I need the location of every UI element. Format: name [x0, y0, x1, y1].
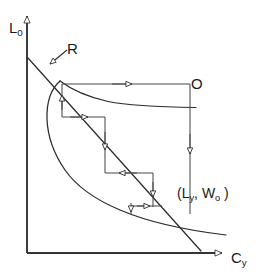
- y-axis-label-subscript: 0: [17, 27, 23, 38]
- curve-o-lower-branch: [47, 81, 226, 235]
- x-axis-label: Cy: [231, 250, 247, 265]
- curve-r-label: R: [67, 41, 78, 56]
- cobweb-diagram-svg: [0, 0, 259, 280]
- cobweb-group: [62, 84, 190, 214]
- equilibrium-l-subscript: y: [189, 193, 194, 203]
- figure-container: L0 Cy R O (Ly, Wo ): [0, 0, 259, 280]
- equilibrium-comma: ,: [194, 185, 202, 201]
- line-r: [28, 58, 201, 251]
- curve-o-label: O: [191, 76, 203, 91]
- x-axis-label-subscript: y: [242, 257, 247, 268]
- equilibrium-w: W: [202, 185, 215, 201]
- y-axis-label: L0: [9, 20, 23, 35]
- curve-o-group: [47, 81, 226, 235]
- equilibrium-close-paren: ): [220, 185, 229, 201]
- equilibrium-point-label: (Ly, Wo ): [177, 186, 229, 200]
- curve-o-upper-branch: [60, 81, 196, 108]
- equilibrium-w-subscript: o: [215, 193, 220, 203]
- x-axis-label-text: C: [231, 249, 242, 266]
- r-label-pointer-arrow: [50, 50, 67, 64]
- axes-group: [27, 16, 222, 253]
